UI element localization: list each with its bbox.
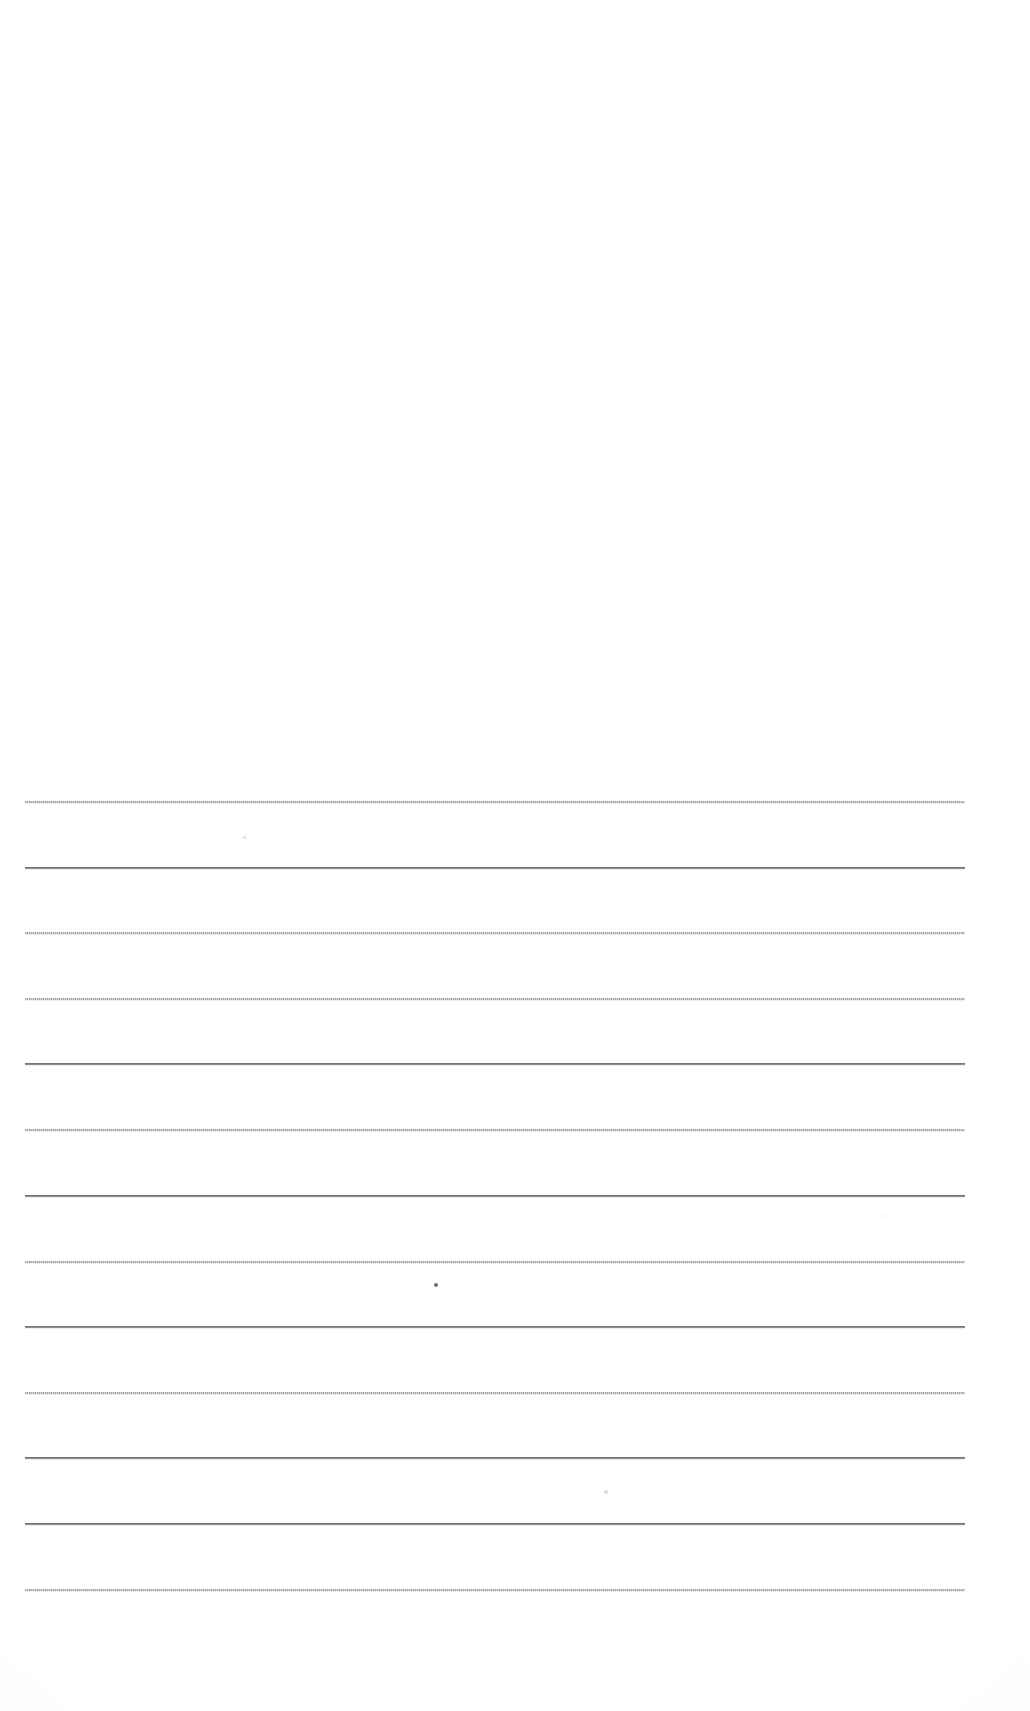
ruled-line (25, 1063, 965, 1065)
scan-speck (434, 1283, 438, 1287)
ruled-line (25, 1195, 965, 1197)
ruled-line (25, 1523, 965, 1525)
ruled-line (25, 1392, 965, 1394)
scanned-page (0, 0, 1030, 1711)
ruled-line (25, 1457, 965, 1459)
scan-speck (604, 1490, 608, 1494)
scan-speck (243, 836, 246, 839)
ruled-line (25, 1589, 965, 1591)
ruled-line (25, 998, 965, 1000)
paper-texture (0, 0, 1030, 1711)
ruled-line (25, 1326, 965, 1328)
ruled-line (25, 1261, 965, 1263)
ruled-line (25, 1129, 965, 1131)
ruled-line (25, 801, 965, 803)
ruled-line (25, 867, 965, 869)
ruled-line (25, 932, 965, 934)
scan-speck (884, 1215, 886, 1217)
